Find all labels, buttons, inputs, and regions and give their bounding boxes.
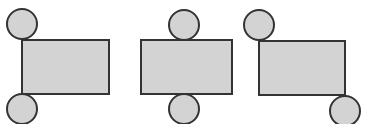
cylinder-net-2 xyxy=(141,10,232,124)
lateral-surface-rectangle xyxy=(22,40,109,94)
cylinder-net-3 xyxy=(244,10,360,124)
cylinder-nets-diagram xyxy=(0,0,368,124)
cylinder-net-1 xyxy=(7,9,109,124)
lateral-surface-rectangle xyxy=(141,40,232,94)
bottom-base-circle xyxy=(7,94,37,124)
top-base-circle xyxy=(244,10,274,40)
top-base-circle xyxy=(7,9,37,39)
top-base-circle xyxy=(169,10,199,40)
bottom-base-circle xyxy=(169,94,199,124)
bottom-base-circle xyxy=(330,96,360,124)
lateral-surface-rectangle xyxy=(259,41,345,95)
